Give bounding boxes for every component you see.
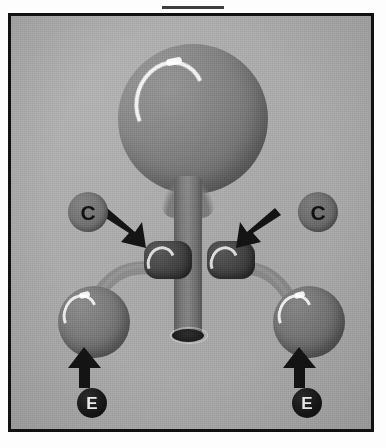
label-badge-c-right[interactable]: C: [298, 192, 338, 232]
arrow-c-right-icon: [236, 208, 281, 248]
label-badge-c-left-text: C: [80, 202, 95, 223]
figure-frame: C C E E: [8, 13, 374, 432]
label-badge-e-left-text: E: [86, 395, 97, 412]
label-badge-e-right[interactable]: E: [292, 388, 322, 418]
label-badge-e-left[interactable]: E: [77, 388, 107, 418]
scan-edge-artifact: [162, 6, 224, 9]
figure-root: C C E E: [0, 0, 386, 448]
arrow-e-right-icon: [283, 347, 316, 388]
label-badge-e-right-text: E: [301, 395, 312, 412]
arrow-e-left-icon: [68, 347, 101, 388]
label-badge-c-right-text: C: [310, 202, 325, 223]
label-badge-c-left[interactable]: C: [68, 192, 108, 232]
